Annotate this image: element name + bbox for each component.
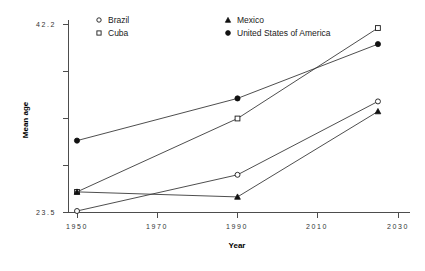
legend-item-cuba[interactable]: Cuba bbox=[97, 28, 129, 38]
series-group bbox=[77, 28, 378, 211]
y-axis-title: Mean age bbox=[21, 101, 30, 138]
legend: Brazil Cuba Mexico United States of Amer… bbox=[97, 15, 331, 38]
x-tick-label-1970: 1970 bbox=[146, 223, 168, 230]
y-tick-label-bottom: 23.5 bbox=[36, 209, 56, 216]
x-axis-ticks bbox=[78, 213, 399, 219]
x-axis-title: Year bbox=[229, 241, 246, 250]
x-tick-label-2030: 2030 bbox=[387, 223, 409, 230]
y-axis-ticks bbox=[63, 25, 69, 213]
series-line-brazil bbox=[77, 101, 378, 211]
legend-item-brazil[interactable]: Brazil bbox=[97, 15, 130, 25]
series-line-cuba bbox=[77, 28, 378, 192]
legend-marker-open-square bbox=[97, 31, 101, 35]
data-point-united-states-of-america-1990 bbox=[235, 96, 240, 101]
legend-marker-filled-triangle bbox=[225, 17, 230, 22]
legend-marker-filled-circle bbox=[226, 31, 231, 36]
data-point-united-states-of-america-2025 bbox=[375, 42, 380, 47]
legend-label-mexico: Mexico bbox=[237, 15, 264, 25]
y-tick-label-top: 42.2 bbox=[36, 21, 56, 28]
line-chart: 42.2 23.5 1950 1970 1990 2010 2030 Year … bbox=[0, 0, 425, 271]
data-point-mexico-2025 bbox=[375, 108, 381, 113]
series-line-mexico bbox=[77, 111, 378, 196]
chart-container: 42.2 23.5 1950 1970 1990 2010 2030 Year … bbox=[0, 0, 425, 271]
legend-item-mexico[interactable]: Mexico bbox=[225, 15, 264, 25]
x-tick-label-1950: 1950 bbox=[66, 223, 88, 230]
legend-label-brazil: Brazil bbox=[108, 15, 129, 25]
data-point-united-states-of-america-1950 bbox=[74, 138, 79, 143]
series-markers-group bbox=[74, 26, 381, 214]
data-point-brazil-2025 bbox=[375, 99, 380, 104]
legend-marker-open-circle bbox=[97, 18, 101, 22]
data-point-cuba-2025 bbox=[376, 26, 381, 31]
legend-item-united-states-of-america[interactable]: United States of America bbox=[226, 28, 331, 38]
x-tick-label-1990: 1990 bbox=[226, 223, 248, 230]
legend-label-cuba: Cuba bbox=[108, 28, 129, 38]
x-tick-label-2010: 2010 bbox=[306, 223, 328, 230]
series-line-united-states-of-america bbox=[77, 44, 378, 141]
data-point-brazil-1990 bbox=[235, 172, 240, 177]
legend-label-united-states-of-america: United States of America bbox=[237, 28, 331, 38]
data-point-cuba-1990 bbox=[235, 116, 240, 121]
data-point-brazil-1950 bbox=[75, 208, 80, 213]
